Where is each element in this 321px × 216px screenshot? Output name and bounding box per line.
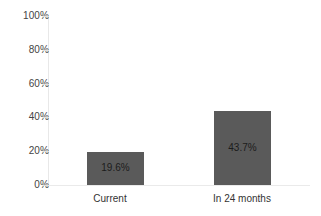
bar-in-24-months[interactable]: 43.7% [214,111,271,185]
bar-value-in-24-months: 43.7% [214,142,271,153]
x-axis-label-current: Current [70,193,150,205]
x-axis-line [48,185,310,186]
x-axis-label-in-24-months: In 24 months [192,193,292,205]
bar-current[interactable]: 19.6% [87,152,144,185]
bar-chart: 0%20%40%60%80%100% 19.6% 43.7% Current I… [0,0,321,216]
bar-value-current: 19.6% [87,162,144,173]
plot-area: 19.6% 43.7% [49,16,310,185]
